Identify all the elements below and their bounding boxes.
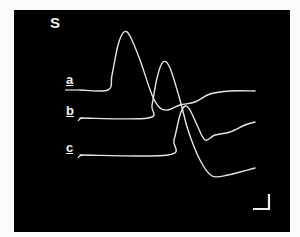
trace-b — [80, 61, 255, 177]
trace-label-a: a — [66, 72, 73, 87]
trace-c-start-tick — [78, 155, 83, 158]
trace-label-b: b — [66, 103, 74, 118]
scale-bar — [253, 194, 269, 209]
trace-a — [80, 31, 255, 110]
traces-plot — [0, 0, 300, 237]
trace-b-start-tick — [78, 118, 83, 121]
trace-label-c: c — [66, 140, 73, 155]
trace-c — [80, 106, 255, 156]
panel-letter: S — [50, 14, 60, 31]
